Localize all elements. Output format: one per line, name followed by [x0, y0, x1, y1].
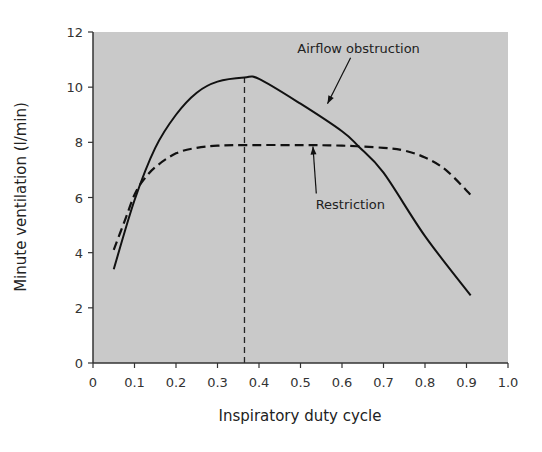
x-tick-label: 0.9: [456, 375, 477, 390]
x-tick-label: 0.1: [124, 375, 145, 390]
y-tick-label: 4: [75, 246, 83, 261]
annotation-airflow-obstruction: Airflow obstruction: [297, 41, 419, 56]
x-tick-label: 0.4: [249, 375, 270, 390]
x-tick-label: 1.0: [498, 375, 519, 390]
x-tick-label: 0.3: [207, 375, 228, 390]
x-tick-label: 0.7: [373, 375, 394, 390]
y-tick-label: 6: [75, 191, 83, 206]
x-axis-title: Inspiratory duty cycle: [219, 407, 382, 425]
y-tick-label: 12: [66, 25, 83, 40]
x-tick-label: 0.8: [415, 375, 436, 390]
y-tick-label: 0: [75, 356, 83, 371]
y-tick-label: 8: [75, 135, 83, 150]
annotation-restriction: Restriction: [316, 197, 385, 212]
x-tick-label: 0: [89, 375, 97, 390]
chart: Airflow obstructionRestriction 00.10.20.…: [0, 0, 542, 452]
y-axis-title: Minute ventilation (l/min): [12, 102, 30, 292]
y-tick-label: 2: [75, 301, 83, 316]
plot-background: [93, 32, 508, 363]
y-tick-label: 10: [66, 80, 83, 95]
x-tick-label: 0.2: [166, 375, 187, 390]
x-tick-label: 0.6: [332, 375, 353, 390]
x-tick-label: 0.5: [290, 375, 311, 390]
